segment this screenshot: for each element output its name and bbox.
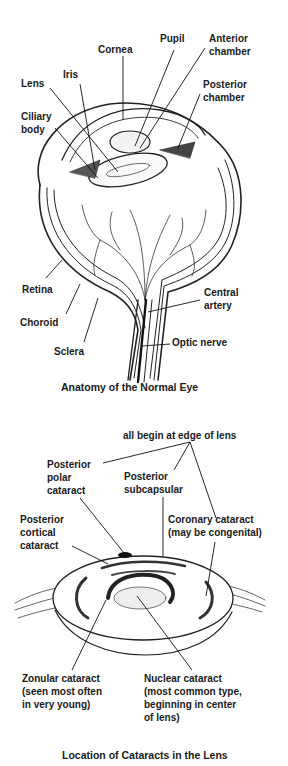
label-retina: Retina <box>22 283 53 296</box>
label-posterior-subcapsular: Posterior subcapsular <box>124 470 183 496</box>
label-iris: Iris <box>63 68 78 81</box>
label-posterior-cortical: Posterior cortical cataract <box>20 513 64 552</box>
label-zonular: Zonular cataract (seen most often in ver… <box>22 672 102 711</box>
eye-leader-lines <box>46 48 205 346</box>
label-posterior-chamber: Posterior chamber <box>203 78 247 104</box>
label-pupil: Pupil <box>160 32 184 45</box>
label-posterior-polar: Posterior polar cataract <box>47 458 91 497</box>
label-ciliary-body: Ciliary body <box>21 110 52 136</box>
lens-illustration <box>15 552 265 655</box>
label-optic-nerve: Optic nerve <box>172 336 227 349</box>
label-anterior-chamber: Anterior chamber <box>209 32 251 58</box>
label-central-artery: Central artery <box>204 286 238 312</box>
label-edge-note: all begin at edge of lens <box>123 429 236 442</box>
figure1-caption: Anatomy of the Normal Eye <box>61 381 198 393</box>
label-coronary: Coronary cataract (may be congenital) <box>168 513 262 539</box>
label-lens: Lens <box>21 77 44 90</box>
label-nuclear: Nuclear cataract (most common type, begi… <box>144 672 242 724</box>
label-choroid: Choroid <box>20 316 58 329</box>
label-sclera: Sclera <box>54 345 84 358</box>
label-cornea: Cornea <box>98 43 132 56</box>
figure2-caption: Location of Cataracts in the Lens <box>62 749 228 761</box>
